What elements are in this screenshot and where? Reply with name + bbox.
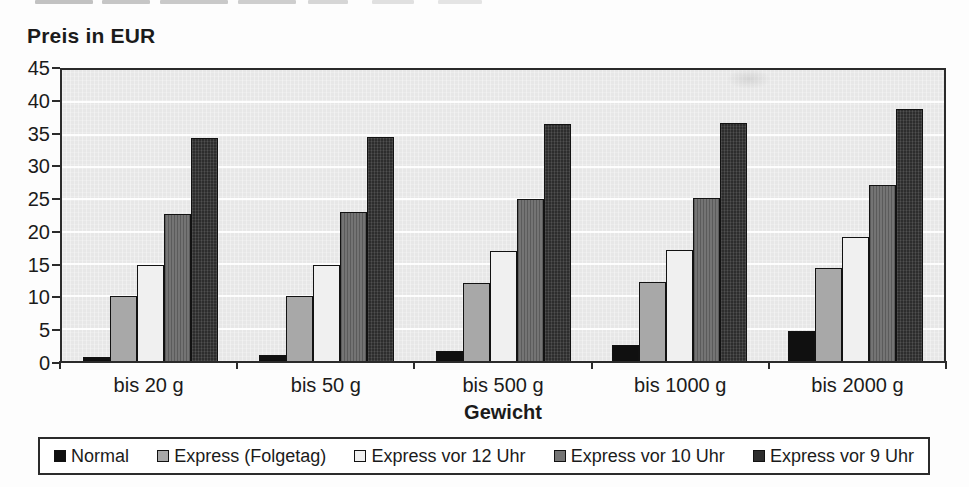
legend-label: Express vor 9 Uhr (770, 446, 914, 467)
y-tick-label: 25 (0, 188, 50, 210)
bar (544, 124, 571, 361)
x-tick-mark (591, 361, 593, 369)
y-tick-label: 15 (0, 254, 50, 276)
x-axis-labels: bis 20 gbis 50 gbis 500 gbis 1000 gbis 2… (60, 374, 946, 397)
bar (313, 265, 340, 361)
bar-chart-figure: Preis in EUR 051015202530354045 bis 20 g… (0, 0, 969, 487)
scan-artifact-fragment (160, 0, 228, 4)
bar (517, 199, 544, 361)
bar-group (415, 70, 591, 361)
x-tick-mark (413, 361, 415, 369)
legend-label: Express vor 10 Uhr (571, 446, 725, 467)
legend-item: Express vor 9 Uhr (753, 446, 914, 467)
bar (720, 123, 747, 361)
plot-area (60, 68, 946, 363)
bar-group (768, 70, 944, 361)
y-tick-mark (52, 198, 60, 200)
bar-group (591, 70, 767, 361)
bar (110, 296, 137, 361)
y-tick-mark (52, 165, 60, 167)
legend-swatch (554, 450, 566, 462)
y-tick-label: 20 (0, 221, 50, 243)
legend-item: Express vor 12 Uhr (354, 446, 525, 467)
y-tick-label: 35 (0, 123, 50, 145)
bar (191, 138, 218, 361)
y-tick-mark (52, 67, 60, 69)
bar (340, 212, 367, 361)
chart-title: Preis in EUR (27, 24, 155, 48)
y-tick-mark (52, 329, 60, 331)
legend-item: Express (Folgetag) (157, 446, 326, 467)
x-tick-mark (59, 361, 61, 369)
bar (463, 283, 490, 361)
x-tick-mark (236, 361, 238, 369)
legend-item: Express vor 10 Uhr (554, 446, 725, 467)
legend-swatch (54, 450, 66, 462)
x-axis-title: Gewicht (60, 401, 946, 424)
x-tick-label: bis 2000 g (769, 374, 946, 397)
scan-artifact-fragment (102, 0, 150, 4)
bar (788, 331, 815, 361)
bar (639, 282, 666, 361)
y-tick-mark (52, 231, 60, 233)
x-tick-mark (768, 361, 770, 369)
bar (869, 185, 896, 361)
scan-artifact (0, 0, 969, 5)
scan-artifact-fragment (308, 0, 348, 4)
legend-label: Normal (71, 446, 129, 467)
bar (436, 351, 463, 361)
bar (612, 345, 639, 361)
y-axis-labels: 051015202530354045 (0, 68, 50, 363)
y-tick-label: 40 (0, 90, 50, 112)
y-tick-label: 5 (0, 319, 50, 341)
bar (367, 137, 394, 361)
y-tick-label: 0 (0, 352, 50, 374)
legend-item: Normal (54, 446, 129, 467)
legend: NormalExpress (Folgetag)Express vor 12 U… (38, 437, 930, 475)
legend-label: Express (Folgetag) (174, 446, 326, 467)
bar (842, 237, 869, 361)
y-tick-label: 10 (0, 286, 50, 308)
y-axis-ticks (52, 68, 60, 363)
y-tick-mark (52, 133, 60, 135)
legend-swatch (157, 450, 169, 462)
legend-swatch (354, 450, 366, 462)
bar-group (238, 70, 414, 361)
bar-group (62, 70, 238, 361)
x-tick-label: bis 50 g (237, 374, 414, 397)
scan-artifact-fragment (372, 0, 414, 4)
x-tick-label: bis 500 g (414, 374, 591, 397)
scan-artifact-fragment (35, 0, 93, 4)
bar (896, 109, 923, 361)
y-tick-mark (52, 100, 60, 102)
bar (286, 296, 313, 361)
y-tick-mark (52, 296, 60, 298)
bar (137, 265, 164, 361)
legend-swatch (753, 450, 765, 462)
bar (164, 214, 191, 361)
legend-label: Express vor 12 Uhr (371, 446, 525, 467)
bar (693, 198, 720, 361)
x-tick-mark (945, 361, 947, 369)
bar (815, 268, 842, 361)
x-axis-ticks (60, 361, 946, 369)
bar-groups (62, 70, 944, 361)
scan-artifact-fragment (438, 0, 482, 4)
x-tick-label: bis 20 g (60, 374, 237, 397)
scan-artifact-fragment (238, 0, 296, 4)
y-tick-label: 45 (0, 57, 50, 79)
bar (666, 250, 693, 361)
scan-smudge (725, 68, 773, 90)
y-tick-mark (52, 264, 60, 266)
y-tick-label: 30 (0, 155, 50, 177)
bar (490, 251, 517, 361)
x-tick-label: bis 1000 g (592, 374, 769, 397)
